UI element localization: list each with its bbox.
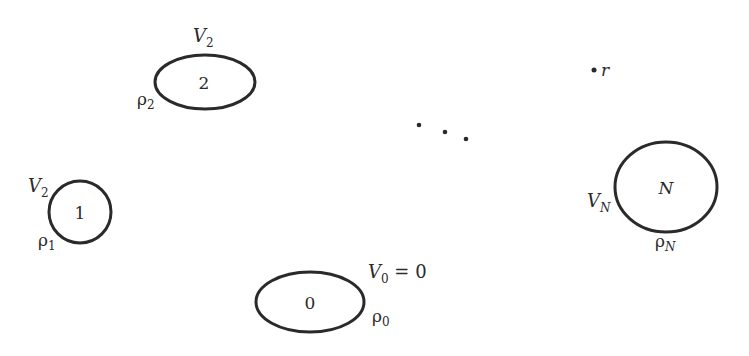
field-point-r: r xyxy=(592,60,611,80)
conductor-1-potential: V2 xyxy=(28,175,49,200)
conductor-2-charge: ρ2 xyxy=(137,89,155,112)
conductor-2-potential: V2 xyxy=(193,25,214,50)
conductor-1-label: 1 xyxy=(75,203,86,223)
conductor-2: 2 V2 ρ2 xyxy=(137,25,255,112)
conductor-system-diagram: 2 V2 ρ2 1 V2 ρ1 0 V0 = 0 ρ0 N VN ρN r xyxy=(0,0,749,356)
conductor-N: N VN ρN xyxy=(587,142,717,254)
point-r-label: r xyxy=(601,60,610,80)
conductor-1: 1 V2 ρ1 xyxy=(28,175,111,253)
conductor-0-label: 0 xyxy=(305,293,316,313)
conductor-0: 0 V0 = 0 ρ0 xyxy=(256,261,427,332)
conductor-0-potential: V0 = 0 xyxy=(368,261,427,286)
conductor-2-label: 2 xyxy=(199,73,210,93)
conductor-1-charge: ρ1 xyxy=(38,230,56,253)
conductor-N-label: N xyxy=(658,178,675,198)
ellipsis-dots xyxy=(417,123,469,142)
conductor-N-charge: ρN xyxy=(655,231,676,254)
conductor-0-charge: ρ0 xyxy=(372,306,390,329)
conductor-N-potential: VN xyxy=(587,190,611,215)
